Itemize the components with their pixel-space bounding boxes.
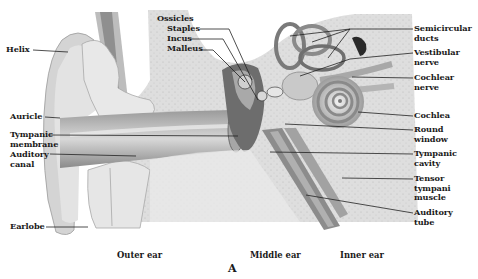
label-incus-text: Incus xyxy=(167,33,192,43)
label-auditory-tube: Auditory tube xyxy=(414,208,453,227)
region-middle-ear-text: Middle ear xyxy=(250,250,301,260)
label-earlobe-text: Earlobe xyxy=(10,221,45,231)
region-middle-ear: Middle ear xyxy=(250,250,301,260)
region-inner-ear: Inner ear xyxy=(340,250,384,260)
label-tympanic-membrane-line2: membrane xyxy=(10,140,58,150)
region-inner-ear-text: Inner ear xyxy=(340,250,384,260)
label-cochlear-nerve-line2: nerve xyxy=(414,83,454,93)
label-cochlear-nerve: Cochlear nerve xyxy=(414,73,454,92)
label-auricle: Auricle xyxy=(10,112,42,122)
label-ossicles-text: Ossicles xyxy=(157,13,194,23)
label-auditory-canal: Auditory canal xyxy=(10,150,49,169)
panel-letter-text: A xyxy=(228,262,237,275)
label-auditory-tube-line2: tube xyxy=(414,218,453,228)
label-semicircular-ducts-line2: ducts xyxy=(414,34,472,44)
label-helix-text: Helix xyxy=(6,44,30,54)
label-tympanic-cavity-line2: cavity xyxy=(414,159,457,169)
region-outer-ear-text: Outer ear xyxy=(117,250,162,260)
label-semicircular-ducts: Semicircular ducts xyxy=(414,24,472,43)
label-earlobe: Earlobe xyxy=(10,222,45,232)
label-tympanic-membrane: Tympanic membrane xyxy=(10,130,58,149)
label-round-window-line2: window xyxy=(414,135,448,145)
panel-letter: A xyxy=(228,262,237,275)
region-outer-ear: Outer ear xyxy=(117,250,162,260)
ear-anatomy-figure: Helix Auricle Tympanic membrane Auditory… xyxy=(0,0,478,279)
label-tensor-tympani-muscle: Tensor tympani muscle xyxy=(414,174,451,203)
label-tympanic-cavity: Tympanic cavity xyxy=(414,149,457,168)
label-helix: Helix xyxy=(6,45,30,55)
label-auricle-text: Auricle xyxy=(10,111,42,121)
label-cochlea: Cochlea xyxy=(414,111,450,121)
label-malleus-text: Malleus xyxy=(167,43,203,53)
label-round-window: Round window xyxy=(414,125,448,144)
label-vestibular-nerve: Vestibular nerve xyxy=(414,48,460,67)
label-tensor-tympani-line3: muscle xyxy=(414,193,451,203)
label-vestibular-nerve-line2: nerve xyxy=(414,58,460,68)
label-staples-text: Staples xyxy=(167,23,200,33)
label-malleus: Malleus xyxy=(167,44,203,54)
label-auditory-canal-line2: canal xyxy=(10,160,49,170)
ear-illustration xyxy=(0,0,478,279)
label-cochlea-text: Cochlea xyxy=(414,110,450,120)
